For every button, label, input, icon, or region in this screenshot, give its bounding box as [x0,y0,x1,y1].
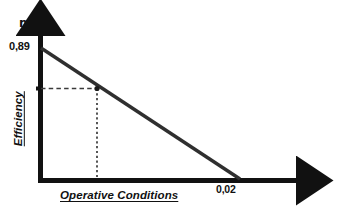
efficiency-chart: η 0,89 0,02 Operative Conditions Efficie… [0,0,337,218]
chart-canvas [0,0,337,218]
y-axis-symbol-eta: η [19,17,28,29]
y-tick-nub [36,87,41,91]
y-axis-title: Efficiency [13,91,25,146]
x-axis-title: Operative Conditions [60,190,178,202]
efficiency-trend-line [41,48,240,179]
x-tick-label-002: 0,02 [216,184,236,195]
operating-point-marker [94,86,99,91]
y-tick-label-089: 0,89 [9,41,30,52]
